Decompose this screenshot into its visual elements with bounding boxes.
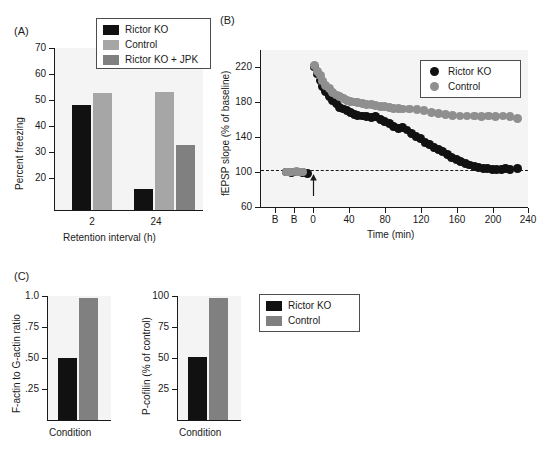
- legend-dot-rictor-ko: [430, 67, 439, 76]
- panel-a-xtick-label-2: 2: [77, 216, 107, 227]
- bar-c-left-control: [79, 298, 98, 420]
- panel-c-right-ytick-25: [172, 389, 177, 390]
- legend-label-b-control: Control: [448, 82, 480, 92]
- panel-c-right-x-axis-title: Condition: [179, 427, 221, 438]
- panel-c-left-y-axis-title: F-actin to G-actin ratio: [11, 314, 22, 413]
- panel-a-ytick-40: [49, 126, 54, 127]
- panel-a: (A) 70 60 50 40 30 20 2 24 Retention int…: [0, 0, 215, 250]
- panel-a-x-axis: [55, 210, 203, 211]
- panel-a-x-axis-title: Retention interval (h): [63, 232, 156, 243]
- panel-c-left-ytick-050: [42, 358, 47, 359]
- panel-c-right-ytick-100: [172, 296, 177, 297]
- panel-c-legend-item-rictor-ko: Rictor KO: [260, 298, 359, 313]
- panel-a-ytick-label-70: 70: [18, 42, 46, 53]
- panel-a-xtick-label-24: 24: [141, 216, 171, 227]
- panel-b-series-layer: [215, 0, 542, 250]
- panel-a-ytick-label-60: 60: [18, 68, 46, 79]
- bar-c-right-control: [209, 298, 228, 420]
- bar-a-24h-rictor-ko-jpk: [176, 145, 195, 210]
- panel-c-right: 100 75 50 25 Condition P-cofilin (% of c…: [130, 255, 430, 452]
- panel-b-legend-item-control: Control: [421, 79, 520, 94]
- panel-a-legend-item-rictor-ko-jpk: Rictor KO + JPK: [97, 52, 210, 67]
- legend-swatch-rictor-ko-jpk: [103, 55, 119, 65]
- legend-dot-control: [430, 82, 439, 91]
- bar-a-24h-control: [155, 92, 174, 210]
- panel-c-legend-item-control: Control: [260, 313, 359, 328]
- panel-a-ytick-label-50: 50: [18, 94, 46, 105]
- panel-b: (B) 220 180 140 100 60 B B 0 40 80 120 1…: [215, 0, 542, 250]
- panel-c-right-y-axis: [177, 296, 178, 421]
- panel-c-left-ytick-025: [42, 389, 47, 390]
- panel-a-ytick-20: [49, 178, 54, 179]
- legend-label-control: Control: [125, 40, 157, 50]
- panel-a-ytick-60: [49, 74, 54, 75]
- panel-a-y-axis: [54, 48, 55, 211]
- panel-c-right-ytick-label-100: 100: [143, 290, 169, 301]
- bar-c-right-rictor-ko: [188, 357, 207, 420]
- panel-a-ytick-70: [49, 48, 54, 49]
- data-point-control: [298, 168, 307, 177]
- bar-a-24h-rictor-ko: [134, 189, 153, 210]
- panel-c-right-x-axis: [178, 420, 241, 421]
- panel-c-left-ytick-label-1: 1.0: [13, 290, 39, 301]
- panel-a-legend: Rictor KO Control Rictor KO + JPK: [96, 18, 211, 69]
- legend-label-c-control: Control: [288, 316, 320, 326]
- panel-c-left-ytick-1: [42, 296, 47, 297]
- data-point-control: [513, 114, 522, 123]
- panel-c-left-ytick-075: [42, 327, 47, 328]
- panel-c-right-ytick-50: [172, 358, 177, 359]
- legend-label-c-rictor-ko: Rictor KO: [288, 301, 331, 311]
- panel-c-left: 1.0 .75 .50 .25 Condition F-actin to G-a…: [0, 255, 130, 452]
- panel-c-left-x-axis: [48, 420, 111, 421]
- panel-c-right-y-axis-title: P-cofilin (% of control): [141, 317, 152, 415]
- data-point-rictor-ko: [513, 164, 522, 173]
- panel-a-ytick-50: [49, 100, 54, 101]
- legend-label-b-rictor-ko: Rictor KO: [448, 67, 491, 77]
- legend-label-rictor-ko: Rictor KO: [125, 25, 168, 35]
- panel-b-legend: Rictor KO Control: [420, 60, 521, 98]
- panel-c: (C) 1.0 .75 .50 .25 Condition F-actin to…: [0, 255, 430, 452]
- legend-swatch-rictor-ko: [103, 25, 119, 35]
- legend-swatch-c-rictor-ko: [266, 301, 282, 311]
- panel-a-legend-item-rictor-ko: Rictor KO: [97, 22, 210, 37]
- bar-a-2h-control: [93, 93, 112, 210]
- panel-a-label: (A): [14, 25, 29, 37]
- panel-c-left-y-axis: [47, 296, 48, 421]
- panel-a-ytick-30: [49, 152, 54, 153]
- panel-a-y-axis-title: Percent freezing: [14, 117, 25, 190]
- legend-label-rictor-ko-jpk: Rictor KO + JPK: [125, 55, 198, 65]
- panel-c-right-ytick-75: [172, 327, 177, 328]
- panel-a-legend-item-control: Control: [97, 37, 210, 52]
- panel-c-left-x-axis-title: Condition: [49, 427, 91, 438]
- panel-b-legend-item-rictor-ko: Rictor KO: [421, 64, 520, 79]
- legend-swatch-control: [103, 40, 119, 50]
- panel-c-legend: Rictor KO Control: [259, 294, 360, 332]
- bar-c-left-rictor-ko: [58, 358, 77, 420]
- bar-a-2h-rictor-ko: [72, 105, 91, 210]
- legend-swatch-c-control: [266, 316, 282, 326]
